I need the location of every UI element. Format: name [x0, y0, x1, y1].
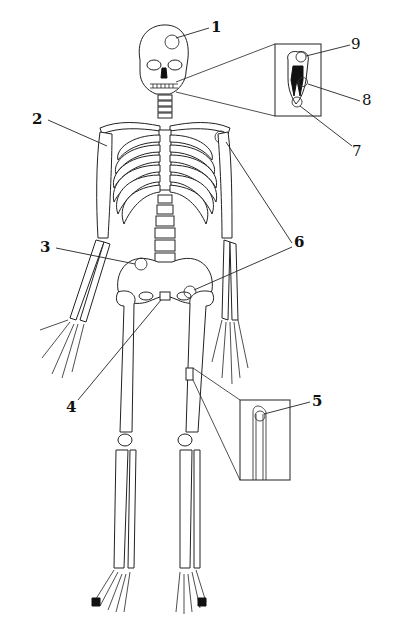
- callout-label-6: 6: [294, 235, 304, 250]
- callout-label-4: 4: [66, 400, 76, 415]
- skull: [139, 25, 188, 94]
- callout-label-9: 9: [351, 37, 361, 52]
- callout-label-8: 8: [362, 93, 372, 108]
- callout-label-7: 7: [352, 144, 362, 159]
- leader-lines: [48, 28, 360, 414]
- callout-label-3: 3: [40, 240, 50, 255]
- callout-label-1: 1: [211, 20, 221, 35]
- skeleton-diagram: 1 2 3 4 5 6 7 8 9: [0, 0, 393, 635]
- legs: [92, 291, 214, 614]
- bone-inset: [186, 368, 290, 480]
- callout-label-2: 2: [32, 112, 42, 127]
- tooth-inset: [176, 44, 321, 116]
- skeleton-illustration: [0, 0, 393, 635]
- callout-label-5: 5: [312, 394, 322, 409]
